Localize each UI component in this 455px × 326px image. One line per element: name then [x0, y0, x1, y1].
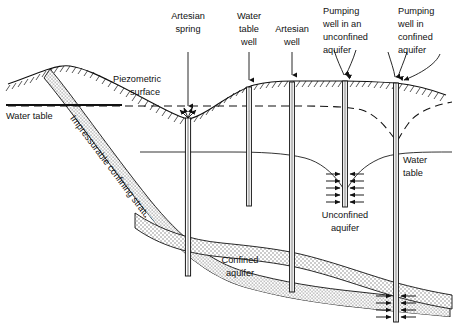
label-water-table-left: Water table — [6, 111, 53, 121]
label-confined-aquifer-line1: Confined — [222, 255, 259, 265]
label-pumping-confined-line1: Pumping — [398, 6, 434, 16]
label-piezometric-line1: Piezometric — [113, 74, 161, 84]
label-unconfined-aquifer-line1: Unconfined — [322, 210, 368, 220]
well-pumping-unconfined[interactable] — [326, 81, 364, 207]
well-artesian[interactable] — [290, 82, 295, 292]
label-water-table-well-line2: table — [239, 24, 259, 34]
label-artesian-well-line2: well — [283, 37, 300, 47]
leader-pumping-confined-c — [404, 54, 440, 80]
label-artesian-well-line1: Artesian — [275, 24, 309, 34]
label-pumping-well-confined: Pumping well in confined aquifer — [397, 6, 434, 55]
ground-hatching — [6, 66, 444, 124]
label-pumping-confined-line3: confined — [398, 32, 433, 42]
label-artesian-well: Artesian well — [275, 24, 309, 47]
label-artesian-spring-line1: Artesian — [171, 11, 205, 21]
label-water-table-right-line1: Water — [403, 155, 427, 165]
label-artesian-spring-line2: spring — [175, 24, 200, 34]
leader-pumping-confined-b — [398, 52, 407, 77]
label-water-table-well-line3: well — [240, 37, 257, 47]
label-confined-aquifer-line2: aquifer — [226, 268, 254, 278]
label-water-table-well: Water table well — [237, 11, 261, 47]
label-unconfined-aquifer: Unconfined aquifer — [322, 210, 368, 233]
label-water-table-right-line2: table — [403, 168, 423, 178]
label-unconfined-aquifer-line2: aquifer — [331, 223, 359, 233]
label-pumping-confined-line2: well in — [397, 19, 424, 29]
ground-surface-group — [6, 66, 446, 124]
label-water-table-right: Water table — [403, 155, 427, 178]
label-pumping-well-unconfined: Pumping well in an unconfined aquifer — [322, 6, 368, 55]
leader-pumping-confined-a — [388, 52, 395, 77]
label-pumping-unconfined-line4: aquifer — [323, 45, 351, 55]
confining-stratum-label: Impressurable confining stratum — [68, 113, 157, 226]
label-water-table-well-line1: Water — [237, 11, 261, 21]
leader-lines — [188, 50, 440, 106]
label-artesian-spring: Artesian spring — [171, 11, 205, 34]
well-water-table[interactable] — [247, 87, 252, 206]
label-pumping-unconfined-line3: unconfined — [323, 32, 368, 42]
label-pumping-unconfined-line1: Pumping — [323, 6, 359, 16]
artesian-spring-spray — [180, 108, 196, 118]
label-piezometric-line2: surface — [130, 87, 160, 97]
label-pumping-unconfined-line2: well in an — [322, 19, 361, 29]
label-pumping-confined-line4: aquifer — [398, 45, 426, 55]
groundwater-cross-section-diagram: Impressurable confining stratum — [0, 0, 455, 326]
